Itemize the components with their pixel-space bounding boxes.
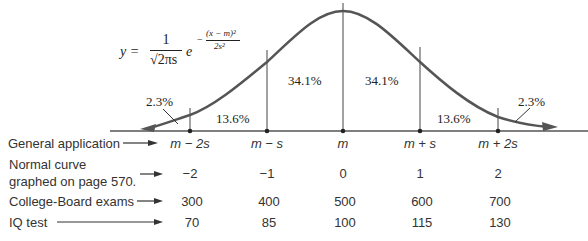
formula-numerator: 1	[151, 32, 181, 48]
region-m-2s-to-m-s: 13.6%	[216, 111, 250, 126]
formula-exp-numerator: (x − m)²	[206, 28, 236, 38]
formula-denominator: √2πs	[150, 52, 177, 68]
formula-lhs: y =	[120, 44, 139, 60]
row-label-general-application: General application	[8, 136, 120, 151]
region-m-to-m+s: 34.1%	[365, 73, 399, 88]
normal-distribution-diagram: y = 1 √2πs e − (x − m)² 2s² 2.3% 13.6% 3…	[0, 0, 588, 241]
row-label-college-board: College-Board exams	[9, 194, 134, 209]
formula-exp-denominator: 2s²	[214, 41, 225, 51]
region-m-s-to-m: 34.1%	[288, 73, 322, 88]
right-arrow-icon	[542, 122, 558, 131]
region-right-tail: 2.3%	[518, 94, 545, 109]
region-left-tail: 2.3%	[146, 94, 173, 109]
region-m+s-to-m+2s: 13.6%	[437, 111, 471, 126]
row-label-iq-test: IQ test	[9, 215, 47, 230]
formula-base: e	[186, 44, 192, 60]
row-label-normal-curve-line1: Normal curve	[9, 157, 86, 172]
row-label-normal-curve-line2: graphed on page 570.	[9, 174, 136, 189]
